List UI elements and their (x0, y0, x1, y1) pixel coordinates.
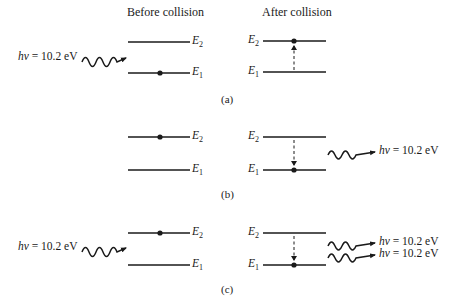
electron-dot-icon (157, 70, 162, 75)
caption-b: (b) (221, 188, 234, 200)
label-e1: E1 (192, 65, 203, 80)
photon-energy-label: hν = 10.2 eV (18, 240, 78, 252)
photon-energy-label: hν = 10.2 eV (379, 144, 439, 156)
electron-dot-icon (157, 134, 162, 139)
label-e2: E2 (248, 225, 259, 240)
label-e2: E2 (192, 34, 203, 49)
label-e1: E1 (192, 257, 203, 272)
incoming-photon-wave-icon (82, 58, 126, 67)
heading-after-collision: After collision (262, 5, 332, 20)
caption-a: (a) (221, 93, 233, 105)
incoming-photon-wave-icon (82, 248, 126, 257)
outgoing-photon-wave-icon (328, 151, 375, 159)
outgoing-photon-wave-icon (328, 254, 375, 262)
label-e1: E1 (248, 64, 259, 79)
electron-dot-icon (291, 38, 296, 43)
photon-energy-label: hν = 10.2 eV (379, 235, 439, 247)
label-e2: E2 (248, 129, 259, 144)
label-e1: E1 (192, 162, 203, 177)
photon-energy-label: hν = 10.2 eV (18, 50, 78, 62)
label-e2: E2 (248, 33, 259, 48)
label-e1: E1 (248, 257, 259, 272)
panel-a (82, 38, 326, 75)
caption-c: (c) (221, 283, 233, 295)
outgoing-photon-wave-icon (328, 242, 375, 250)
label-e1: E1 (248, 162, 259, 177)
label-e2: E2 (192, 225, 203, 240)
electron-dot-icon (157, 230, 162, 235)
energy-value: = 10.2 eV (29, 50, 78, 62)
heading-before-collision: Before collision (127, 5, 204, 20)
electron-dot-icon (291, 167, 296, 172)
label-e2: E2 (192, 129, 203, 144)
panel-c (82, 230, 375, 267)
photon-energy-label: hν = 10.2 eV (379, 247, 439, 259)
electron-dot-icon (291, 262, 296, 267)
